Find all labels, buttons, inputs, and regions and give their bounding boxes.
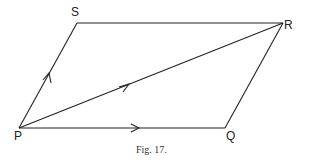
edge-qr xyxy=(225,23,283,128)
vertex-label-q: Q xyxy=(226,130,235,142)
vertex-label-p: P xyxy=(14,130,22,142)
diagonal-pr xyxy=(19,23,283,128)
vertex-label-s: S xyxy=(71,6,79,18)
edge-sp xyxy=(19,23,77,128)
vertex-label-r: R xyxy=(284,19,293,31)
figure-caption: Fig. 17. xyxy=(136,145,167,155)
diagram-canvas xyxy=(0,0,309,164)
parallelogram-figure: S R P Q Fig. 17. xyxy=(0,0,309,164)
